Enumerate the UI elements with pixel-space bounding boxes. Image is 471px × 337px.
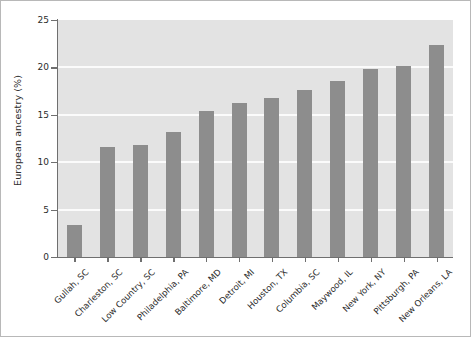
bar [264, 98, 279, 257]
x-axis-tick-label: Columbia, SC [274, 267, 322, 315]
bar [429, 45, 444, 257]
gridline [58, 209, 453, 211]
bar [330, 81, 345, 257]
x-axis-tick-label: Pittsburgh, PA [371, 267, 420, 316]
gridline [58, 114, 453, 116]
y-axis-tick-mark [51, 257, 57, 258]
bar [133, 145, 148, 257]
bar [396, 66, 411, 257]
bar [67, 225, 82, 257]
x-axis-tick-label: Low Country, SC [100, 267, 157, 324]
y-axis-tick-label: 20 [25, 62, 49, 72]
x-axis-tick-label: New Orleans, LA [396, 267, 453, 324]
chart-figure: European ancestry (%) 0510152025 Gullah,… [0, 0, 471, 337]
y-axis-tick-mark [51, 210, 57, 211]
x-axis-tick-mark [173, 258, 174, 262]
x-axis-tick-mark [305, 258, 306, 262]
x-axis-tick-mark [272, 258, 273, 262]
y-axis-spine [57, 19, 58, 258]
x-axis-tick-label: Detroit, MI [217, 267, 256, 306]
y-axis-tick-mark [51, 162, 57, 163]
plot-area [58, 20, 453, 257]
y-axis-tick-label: 15 [25, 110, 49, 120]
x-axis-tick-mark [239, 258, 240, 262]
x-axis-tick-label: Houston, TX [245, 267, 289, 311]
y-axis-tick-mark [51, 20, 57, 21]
x-axis-tick-mark [404, 258, 405, 262]
y-axis-tick-mark [51, 67, 57, 68]
bar [100, 147, 115, 257]
gridline [58, 66, 453, 68]
x-axis-tick-mark [140, 258, 141, 262]
x-axis-tick-mark [437, 258, 438, 262]
x-axis-tick-label: New York, NY [340, 267, 387, 314]
x-axis-tick-label: Baltimore, MD [173, 267, 223, 317]
bar [297, 90, 312, 257]
bar [199, 111, 214, 257]
x-axis-tick-label: Philadelphia, PA [135, 267, 190, 322]
gridline [58, 161, 453, 163]
x-axis-tick-mark [74, 258, 75, 262]
x-axis-tick-mark [206, 258, 207, 262]
x-axis-tick-mark [338, 258, 339, 262]
bar [232, 103, 247, 257]
x-axis-tick-mark [107, 258, 108, 262]
y-axis-tick-label: 25 [25, 15, 49, 25]
y-axis-tick-labels: 0510152025 [21, 1, 49, 337]
y-axis-tick-label: 10 [25, 157, 49, 167]
y-axis-tick-mark [51, 115, 57, 116]
x-axis-tick-label: Gullah, SC [52, 267, 91, 306]
y-axis-tick-label: 0 [25, 252, 49, 262]
x-axis-tick-label: Maywood, IL [309, 267, 354, 312]
x-axis-spine [57, 257, 453, 258]
x-axis-tick-label: Charleston, SC [73, 267, 125, 319]
y-axis-tick-label: 5 [25, 205, 49, 215]
bar [166, 132, 181, 257]
x-axis-tick-mark [371, 258, 372, 262]
bar [363, 69, 378, 257]
